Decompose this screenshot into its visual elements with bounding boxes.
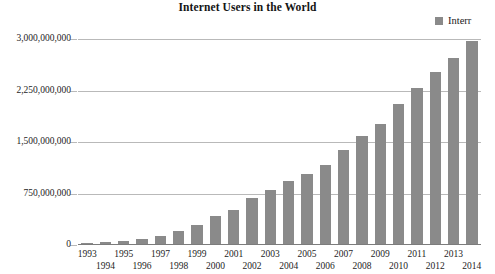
x-axis-tick-label: 1999 xyxy=(188,249,207,259)
x-axis-tick-label: 2009 xyxy=(371,249,390,259)
x-axis-line xyxy=(78,244,481,245)
chart-legend: Interr xyxy=(435,15,495,26)
legend-swatch-icon xyxy=(435,17,443,25)
bar xyxy=(356,136,367,244)
x-axis-tick-label: 2002 xyxy=(243,261,262,271)
y-axis-tick xyxy=(70,39,77,40)
x-axis-tick-label: 2003 xyxy=(261,249,280,259)
x-axis-tick-label: 2014 xyxy=(462,261,481,271)
bar xyxy=(191,225,202,244)
legend-label: Interr xyxy=(448,15,471,26)
y-axis-tick xyxy=(70,142,77,143)
y-axis-tick-label: 0 xyxy=(0,239,71,249)
x-axis-tick-label: 1997 xyxy=(151,249,170,259)
bar xyxy=(210,216,221,244)
x-axis-tick-label: 2000 xyxy=(206,261,225,271)
y-axis-tick xyxy=(70,245,77,246)
x-axis-tick-label: 1994 xyxy=(96,261,115,271)
bar xyxy=(448,58,459,244)
y-axis-tick-label: 3,000,000,000 xyxy=(0,33,71,43)
bar xyxy=(411,88,422,244)
x-axis-tick-label: 2013 xyxy=(444,249,463,259)
x-axis-tick-label: 2004 xyxy=(279,261,298,271)
y-axis-tick xyxy=(70,194,77,195)
bar xyxy=(393,104,404,244)
x-axis-tick-label: 2005 xyxy=(297,249,316,259)
y-axis-tick xyxy=(70,91,77,92)
x-axis-tick-label: 1995 xyxy=(114,249,133,259)
y-axis-tick-label: 750,000,000 xyxy=(0,188,71,198)
bar xyxy=(283,181,294,244)
bar xyxy=(320,165,331,244)
bar xyxy=(338,150,349,244)
gridline xyxy=(78,39,481,40)
x-axis-tick-label: 1998 xyxy=(169,261,188,271)
x-axis-tick-label: 2006 xyxy=(316,261,335,271)
bar xyxy=(430,72,441,244)
bar xyxy=(375,124,386,244)
bar xyxy=(246,198,257,244)
bar xyxy=(173,231,184,244)
bar xyxy=(301,174,312,244)
chart-title: Internet Users in the World xyxy=(0,1,495,13)
x-axis-tick-label: 1993 xyxy=(78,249,97,259)
x-axis-tick-label: 2011 xyxy=(408,249,427,259)
x-axis-tick-label: 2001 xyxy=(224,249,243,259)
bar xyxy=(466,41,477,244)
plot-area xyxy=(78,39,481,245)
x-axis-tick-label: 2007 xyxy=(334,249,353,259)
x-axis-tick-label: 2012 xyxy=(426,261,445,271)
y-axis-tick-label: 1,500,000,000 xyxy=(0,136,71,146)
y-axis-tick-label: 2,250,000,000 xyxy=(0,85,71,95)
chart-figure: Internet Users in the World Interr 0750,… xyxy=(0,0,495,274)
x-axis-tick-label: 1996 xyxy=(133,261,152,271)
x-axis-tick-label: 2010 xyxy=(389,261,408,271)
bar xyxy=(265,190,276,244)
bar xyxy=(228,210,239,244)
x-axis-tick-label: 2008 xyxy=(352,261,371,271)
